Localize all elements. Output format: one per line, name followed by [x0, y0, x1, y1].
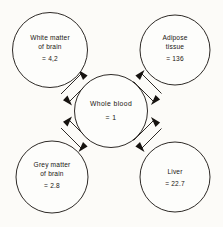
node-circle-whole-blood[interactable]: [75, 75, 148, 148]
diagram-canvas: White matter of brain = 4,2 Adipose tiss…: [0, 0, 223, 227]
node-circle-adipose-tissue[interactable]: [140, 15, 210, 85]
diagram-svg: [0, 0, 223, 227]
node-circle-liver[interactable]: [140, 142, 210, 212]
node-circle-white-matter[interactable]: [13, 13, 88, 88]
node-circle-grey-matter[interactable]: [16, 141, 88, 213]
